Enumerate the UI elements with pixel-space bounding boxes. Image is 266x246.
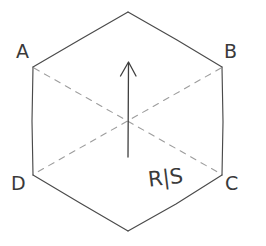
- hexagon-edge-bottom-left: [33, 175, 128, 231]
- vertex-label-d: D: [11, 174, 26, 193]
- vertex-label-a: A: [16, 42, 30, 61]
- hexagon-edge-right: [222, 67, 223, 175]
- sketch-canvas: A B D C R|S: [0, 0, 266, 246]
- hexagon-edge-top-left: [33, 12, 128, 67]
- arrow-shaft: [128, 63, 129, 157]
- hexagon-edge-left: [32, 67, 33, 175]
- hexagon-diagram-svg: [0, 0, 266, 246]
- direction-arrow-up: [121, 62, 137, 157]
- hexagon-edge-top-right: [128, 12, 222, 67]
- annotation-label-rs: R|S: [147, 166, 184, 191]
- vertex-label-c: C: [225, 174, 239, 193]
- dashed-diagonals: [34, 68, 221, 174]
- vertex-label-b: B: [224, 42, 238, 61]
